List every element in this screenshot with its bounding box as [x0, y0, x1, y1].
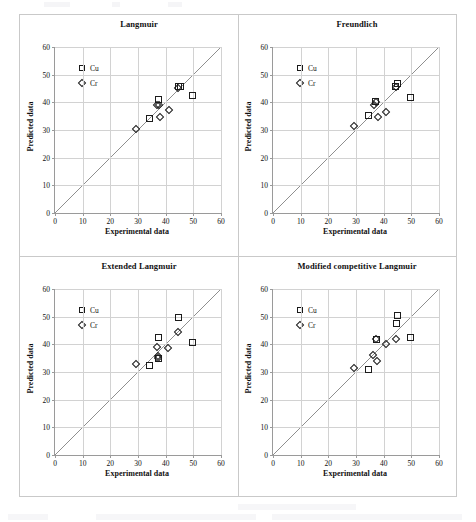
x-tick-label: 50: [190, 459, 198, 468]
x-tick: [411, 213, 412, 216]
gridline-horizontal: [273, 400, 439, 401]
y-tick: [52, 400, 55, 401]
y-tick: [270, 400, 273, 401]
y-tick: [52, 185, 55, 186]
x-tick-label: 50: [408, 217, 416, 226]
gridline-horizontal: [273, 344, 439, 345]
y-tick-label: 20: [43, 153, 51, 162]
x-tick: [83, 213, 84, 216]
y-tick: [52, 289, 55, 290]
y-tick: [52, 47, 55, 48]
y-tick-label: 20: [261, 153, 269, 162]
y-axis-title-wrap: Predicted data: [242, 289, 256, 455]
data-point-cu: [146, 362, 153, 369]
data-point-cu: [393, 320, 400, 327]
legend-label: Cu: [308, 64, 317, 73]
legend-label: Cu: [90, 306, 99, 315]
y-tick: [52, 372, 55, 373]
y-tick-label: 50: [261, 70, 269, 79]
y-axis-title: Predicted data: [244, 77, 253, 177]
gridline-horizontal: [55, 289, 221, 290]
gridline-horizontal: [55, 317, 221, 318]
y-tick-label: 10: [261, 181, 269, 190]
x-tick-label: 40: [162, 217, 170, 226]
top-scan-artifacts: [0, 0, 476, 14]
x-tick-label: 0: [271, 459, 275, 468]
data-point-cu: [365, 112, 372, 119]
y-tick: [52, 427, 55, 428]
x-tick: [439, 455, 440, 458]
gridline-vertical: [221, 47, 222, 213]
x-tick: [221, 213, 222, 216]
x-tick-label: 10: [79, 217, 87, 226]
x-tick: [273, 213, 274, 216]
x-tick: [166, 213, 167, 216]
x-tick-label: 40: [162, 459, 170, 468]
x-tick-label: 50: [408, 459, 416, 468]
y-axis-title-wrap: Predicted data: [24, 289, 38, 455]
gridline-vertical: [439, 289, 440, 455]
data-point-cu: [175, 314, 182, 321]
gridline-horizontal: [55, 185, 221, 186]
y-tick-label: 40: [43, 340, 51, 349]
y-tick: [270, 344, 273, 345]
x-tick: [411, 455, 412, 458]
x-tick: [110, 213, 111, 216]
panel-langmuir: Langmuir Predicted data Cu Cr 0102030405…: [20, 15, 258, 275]
x-tick-label: 60: [217, 217, 225, 226]
gridline-horizontal: [273, 289, 439, 290]
legend-label: Cr: [308, 79, 316, 88]
x-tick: [328, 213, 329, 216]
y-tick-label: 30: [43, 126, 51, 135]
y-tick: [52, 102, 55, 103]
gridline-horizontal: [55, 158, 221, 159]
gridline-horizontal: [55, 372, 221, 373]
y-tick-label: 20: [261, 395, 269, 404]
x-tick-label: 30: [352, 217, 360, 226]
x-tick: [138, 213, 139, 216]
y-tick-label: 30: [43, 368, 51, 377]
y-tick-label: 10: [43, 423, 51, 432]
x-axis-title: Experimental data: [54, 227, 220, 236]
x-tick: [221, 455, 222, 458]
y-tick: [52, 213, 55, 214]
x-tick-label: 60: [435, 459, 443, 468]
x-tick: [138, 455, 139, 458]
x-tick-label: 20: [325, 217, 333, 226]
plot-area: Cu Cr 01020304050600102030405060: [54, 47, 221, 214]
x-tick-label: 50: [190, 217, 198, 226]
x-tick-label: 60: [217, 459, 225, 468]
gridline-horizontal: [273, 185, 439, 186]
legend-label: Cr: [308, 321, 316, 330]
y-tick: [270, 427, 273, 428]
y-tick-label: 40: [43, 98, 51, 107]
gridline-horizontal: [273, 372, 439, 373]
x-tick: [356, 455, 357, 458]
legend-label: Cr: [90, 321, 98, 330]
legend: Cu Cr: [295, 303, 317, 333]
gridline-horizontal: [55, 400, 221, 401]
y-tick-label: 0: [264, 451, 268, 460]
x-tick: [384, 455, 385, 458]
plot-area: Cu Cr 01020304050600102030405060: [272, 47, 439, 214]
data-point-cu: [189, 339, 196, 346]
gridline-vertical: [439, 47, 440, 213]
y-tick-label: 50: [261, 312, 269, 321]
gridline-horizontal: [273, 75, 439, 76]
y-tick: [270, 455, 273, 456]
data-point-cu: [407, 334, 414, 341]
x-tick: [83, 455, 84, 458]
y-tick: [52, 158, 55, 159]
x-tick-label: 10: [79, 459, 87, 468]
plot-area: Cu Cr 01020304050600102030405060: [54, 289, 221, 456]
legend-label: Cu: [308, 306, 317, 315]
legend-item-cr: Cr: [295, 76, 317, 91]
y-tick-label: 0: [46, 209, 50, 218]
y-tick-label: 60: [43, 43, 51, 52]
panel-freundlich: Freundlich Predicted data Cu Cr 01020304…: [238, 15, 476, 275]
x-tick: [193, 213, 194, 216]
gridline-horizontal: [273, 102, 439, 103]
y-axis-title-wrap: Predicted data: [242, 47, 256, 213]
y-tick-label: 0: [46, 451, 50, 460]
y-tick: [52, 130, 55, 131]
